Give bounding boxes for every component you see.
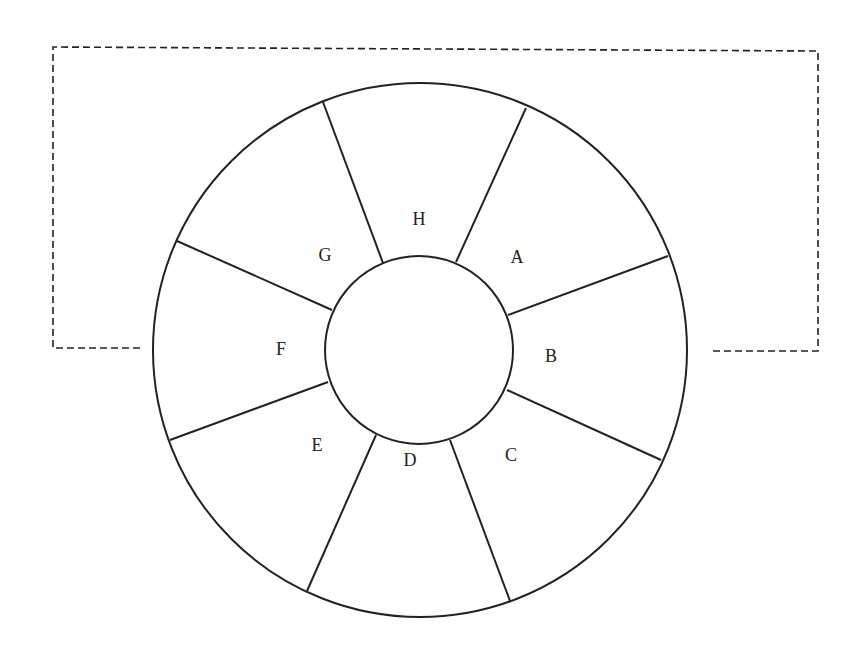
segment-label-c: C: [505, 445, 517, 465]
ring-diagram: ABCDEFGH: [0, 0, 867, 655]
spoke-g-h: [323, 102, 383, 263]
spoke-c-d: [450, 440, 510, 601]
segment-label-h: H: [413, 209, 426, 229]
segment-label-f: F: [276, 339, 286, 359]
spoke-a-b: [508, 256, 668, 315]
spoke-d-e: [307, 435, 376, 591]
segment-label-g: G: [319, 245, 332, 265]
segment-label-e: E: [312, 435, 323, 455]
spoke-e-f: [170, 382, 328, 440]
spoke-b-c: [507, 390, 661, 460]
spoke-h-a: [456, 108, 526, 262]
spoke-f-g: [177, 241, 332, 310]
segment-label-a: A: [511, 247, 524, 267]
segment-label-b: B: [545, 346, 557, 366]
segment-label-d: D: [404, 450, 417, 470]
inner-circle: [325, 256, 513, 444]
